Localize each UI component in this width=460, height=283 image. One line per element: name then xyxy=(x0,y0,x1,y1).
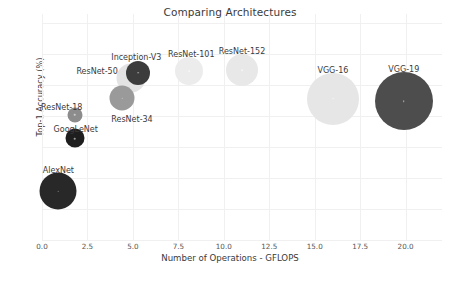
data-point-label: ResNet-152 xyxy=(219,47,266,56)
data-point-label: ResNet-101 xyxy=(168,50,215,59)
gridline-vertical xyxy=(178,14,179,240)
bubble-center-marker xyxy=(121,97,123,99)
bubble-center-marker xyxy=(188,70,190,72)
data-point-label: AlexNet xyxy=(43,166,74,175)
data-point-label: GoogLeNet xyxy=(54,125,98,134)
x-axis-label: Number of Operations - GFLOPS xyxy=(0,253,460,263)
chart-figure: Comparing Architectures Top-1 Accuracy (… xyxy=(0,0,460,283)
bubble-center-marker xyxy=(74,138,76,140)
gridline-horizontal xyxy=(42,240,442,241)
x-tick-label: 20.0 xyxy=(376,242,436,251)
plot-area: 5055606570758085 0.02.55.07.510.012.515.… xyxy=(42,14,442,240)
data-point-label: ResNet-50 xyxy=(76,67,117,76)
data-point-bubble[interactable] xyxy=(375,72,433,130)
gridline-vertical xyxy=(269,14,270,240)
data-point-bubble[interactable] xyxy=(110,86,135,111)
data-point-bubble[interactable] xyxy=(126,61,150,85)
gridline-horizontal xyxy=(42,209,442,210)
gridline-horizontal xyxy=(42,23,442,24)
gridline-horizontal xyxy=(42,147,442,148)
data-point-bubble[interactable] xyxy=(175,57,203,85)
gridline-vertical xyxy=(42,14,43,240)
gridline-vertical xyxy=(315,14,316,240)
bubble-center-marker xyxy=(74,114,76,116)
bubble-center-marker xyxy=(403,101,405,103)
data-point-label: ResNet-34 xyxy=(111,115,152,124)
data-point-label: Inception-V3 xyxy=(111,53,161,62)
bubble-center-marker xyxy=(332,98,334,100)
gridline-horizontal xyxy=(42,178,442,179)
bubble-center-marker xyxy=(241,70,243,72)
data-point-bubble[interactable] xyxy=(307,73,359,125)
data-point-label: VGG-19 xyxy=(388,65,419,74)
gridline-vertical xyxy=(360,14,361,240)
data-point-label: VGG-16 xyxy=(317,66,348,75)
gridline-vertical xyxy=(133,14,134,240)
bubble-center-marker xyxy=(58,190,60,192)
data-point-bubble[interactable] xyxy=(226,54,258,86)
bubble-center-marker xyxy=(138,72,140,74)
data-point-bubble[interactable] xyxy=(40,173,77,210)
data-point-label: ResNet-18 xyxy=(41,103,82,112)
